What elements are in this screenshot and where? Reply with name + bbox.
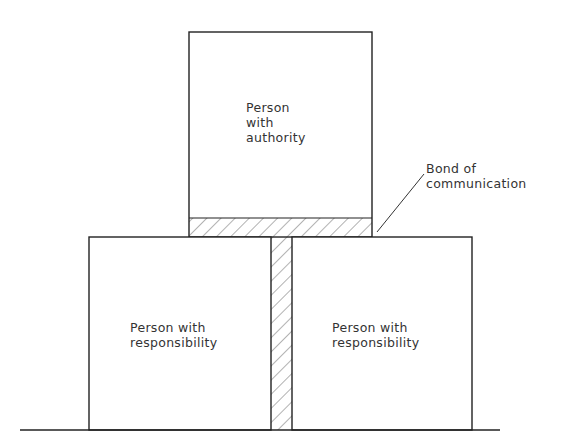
annotation-label-line2: communication [426,176,527,191]
right-box-label: Person with responsibility [332,320,419,350]
top-box-label-line2: with [246,115,306,130]
left-box-label-line1: Person with [130,320,217,335]
right-box-label-line2: responsibility [332,335,419,350]
top-box-label-line3: authority [246,130,306,145]
annotation-label-line1: Bond of [426,161,527,176]
top-box-label-line1: Person [246,100,306,115]
left-box-label: Person with responsibility [130,320,217,350]
left-box-label-line2: responsibility [130,335,217,350]
right-box-label-line1: Person with [332,320,419,335]
diagram-canvas [0,0,569,447]
annotation-leader-line [377,174,424,232]
top-box-label: Person with authority [246,100,306,145]
annotation-label: Bond of communication [426,161,527,191]
